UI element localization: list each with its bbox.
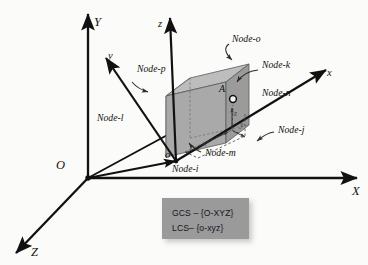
leader-node-p — [132, 82, 148, 92]
point-a-local-y-label: y — [240, 121, 243, 128]
global-y-axis-label: Y — [94, 16, 101, 29]
global-x-axis-label: X — [352, 185, 360, 198]
point-a-label: A — [219, 84, 225, 94]
point-a-marker — [230, 96, 237, 103]
node-label-m: Node-m — [205, 148, 236, 158]
global-z-axis — [16, 178, 88, 253]
global-origin-label: O — [56, 159, 65, 172]
local-x-axis-label: x — [327, 68, 332, 79]
leader-node-o — [226, 44, 232, 60]
point-a-local-z-label: z — [234, 110, 237, 117]
figure-canvas: Y X Z O z y x o A z y x Node-p Node-o No… — [0, 0, 368, 265]
local-origin-label: o — [165, 150, 170, 161]
node-label-n: Node-n — [262, 88, 291, 98]
node-label-k: Node-k — [262, 60, 290, 70]
node-label-p: Node-p — [137, 64, 166, 74]
local-y-axis-label: y — [108, 51, 113, 62]
legend-line-lcs: LCS– {o-xyz} — [172, 223, 223, 233]
leader-node-j — [257, 132, 274, 141]
node-label-j: Node-j — [278, 125, 304, 135]
global-z-axis-label: Z — [31, 246, 38, 259]
legend-line-gcs: GCS – {O-XYZ} — [172, 208, 233, 218]
node-label-o: Node-o — [232, 34, 261, 44]
global-to-local-origin-vector — [88, 161, 176, 178]
node-label-l: Node-l — [97, 113, 123, 123]
local-z-axis-label: z — [158, 19, 162, 30]
node-label-i: Node-i — [172, 164, 198, 174]
